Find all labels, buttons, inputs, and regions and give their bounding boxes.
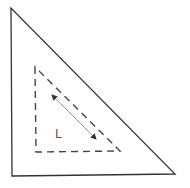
length-label: L: [55, 127, 62, 141]
triangle-diagram: L: [0, 0, 190, 188]
